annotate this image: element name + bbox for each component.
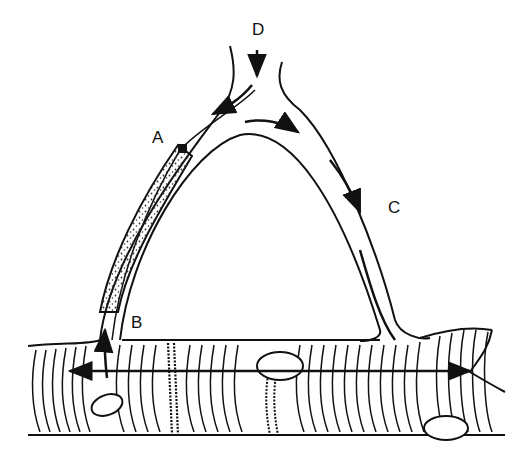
z-band: [168, 343, 178, 435]
block-marker: [178, 144, 187, 153]
label-a: A: [152, 128, 163, 148]
flow-arrows: [70, 50, 470, 378]
muscle-nuclei: [89, 352, 468, 440]
label-b: B: [131, 313, 142, 333]
label-c: C: [388, 198, 400, 218]
label-d: D: [252, 20, 264, 40]
myelin-segment: [100, 145, 192, 312]
diagram-canvas: [0, 0, 518, 453]
